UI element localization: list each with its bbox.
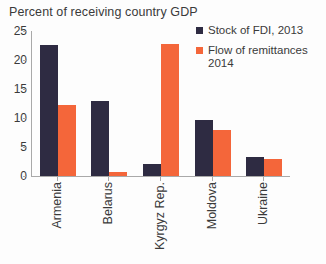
- bar[interactable]: [91, 101, 109, 176]
- x-axis-tick-label: Kyrgyz Rep.: [153, 182, 167, 250]
- bar[interactable]: [58, 105, 76, 176]
- y-axis: 0510152025: [0, 31, 27, 177]
- x-axis-label-cell: Ukraine: [237, 178, 289, 262]
- x-axis-tick-label: Belarus: [101, 182, 115, 224]
- y-axis-tick-mark: [23, 147, 27, 148]
- x-axis-tick-mark: [57, 177, 58, 181]
- x-axis-tick-mark: [212, 177, 213, 181]
- bar-group: [187, 31, 239, 176]
- x-axis-label-cell: Armenia: [31, 178, 83, 262]
- y-axis-tick-mark: [23, 31, 27, 32]
- bar[interactable]: [143, 164, 161, 176]
- bar-groups: [32, 31, 290, 176]
- x-axis-tick-label: Ukraine: [256, 182, 270, 225]
- y-axis-tick-mark: [23, 89, 27, 90]
- bar[interactable]: [213, 130, 231, 176]
- x-axis-tick-label: Armenia: [50, 182, 64, 229]
- bar[interactable]: [195, 120, 213, 176]
- x-axis-tick-label: Moldova: [205, 182, 219, 229]
- x-axis-tick-mark: [160, 177, 161, 181]
- bar[interactable]: [161, 44, 179, 176]
- plot-area: [31, 31, 290, 177]
- x-axis-label-cell: Belarus: [83, 178, 135, 262]
- y-axis-tick-mark: [23, 176, 27, 177]
- bar-group: [32, 31, 84, 176]
- bar[interactable]: [264, 159, 282, 176]
- bar-group: [238, 31, 290, 176]
- x-axis-tick-mark: [263, 177, 264, 181]
- x-axis-label-cell: Kyrgyz Rep.: [134, 178, 186, 262]
- y-axis-tick-mark: [23, 60, 27, 61]
- bar[interactable]: [109, 172, 127, 176]
- bar[interactable]: [246, 157, 264, 176]
- bar-group: [135, 31, 187, 176]
- x-axis-tick-mark: [108, 177, 109, 181]
- x-axis-labels: ArmeniaBelarusKyrgyz Rep.MoldovaUkraine: [31, 178, 289, 262]
- bar-group: [84, 31, 136, 176]
- y-axis-tick-mark: [23, 118, 27, 119]
- x-axis-label-cell: Moldova: [186, 178, 238, 262]
- bar[interactable]: [40, 45, 58, 176]
- chart-title: Percent of receiving country GDP: [9, 5, 198, 19]
- chart-container: Percent of receiving country GDP Stock o…: [0, 0, 326, 264]
